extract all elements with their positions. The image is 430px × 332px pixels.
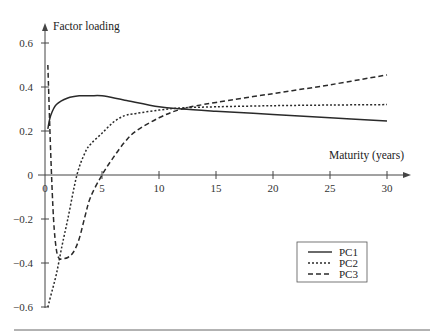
y-axis-arrow-icon — [42, 23, 48, 31]
x-axis-label: Maturity (years) — [329, 149, 404, 162]
y-tick-label: 0.6 — [19, 37, 33, 49]
y-tick-label: 0.4 — [19, 81, 33, 93]
x-tick-label: 5 — [99, 182, 105, 194]
x-tick-label: 15 — [211, 182, 223, 194]
y-tick-label: −0.4 — [13, 257, 33, 269]
y-tick-label: −0.2 — [13, 213, 33, 225]
y-axis-label: Factor loading — [53, 20, 120, 33]
x-tick-label: 20 — [268, 182, 280, 194]
x-tick-label: 30 — [382, 182, 394, 194]
y-tick-label: 0.2 — [19, 125, 33, 137]
series-line-pc3 — [48, 65, 387, 259]
legend-label-pc3: PC3 — [339, 268, 358, 280]
x-axis-arrow-icon — [403, 172, 411, 178]
x-tick-label: 10 — [154, 182, 166, 194]
x-tick-label: 0 — [42, 182, 48, 194]
factor-loading-chart: 0.60.40.20−0.2−0.4−0.6051015202530 Facto… — [0, 0, 430, 332]
series-line-pc1 — [48, 95, 387, 128]
y-tick-label: −0.6 — [13, 301, 33, 313]
y-tick-label: 0 — [28, 169, 34, 181]
x-tick-label: 25 — [325, 182, 337, 194]
legend: PC1 PC2 PC3 — [297, 242, 367, 282]
